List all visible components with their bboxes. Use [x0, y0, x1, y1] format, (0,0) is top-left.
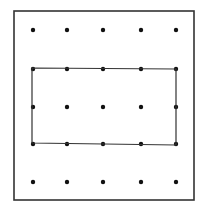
geoboard-diagram — [0, 0, 205, 211]
geoboard-svg — [0, 0, 205, 211]
grid-dot-r3-c3 — [101, 105, 105, 109]
grid-dot-r5-c5 — [174, 180, 178, 184]
grid-dot-r2-c2 — [65, 67, 69, 71]
grid-dot-r3-c4 — [139, 105, 143, 109]
grid-dot-r5-c4 — [139, 180, 143, 184]
grid-dot-r1-c5 — [174, 28, 178, 32]
grid-dot-r1-c2 — [65, 28, 69, 32]
grid-dot-r5-c2 — [65, 180, 69, 184]
grid-dot-r5-c3 — [101, 180, 105, 184]
grid-dot-r3-c2 — [65, 105, 69, 109]
grid-dot-r5-c1 — [31, 180, 35, 184]
dot-grid — [31, 28, 178, 184]
grid-dot-r1-c1 — [31, 28, 35, 32]
grid-dot-r1-c4 — [139, 28, 143, 32]
grid-dot-r1-c3 — [101, 28, 105, 32]
